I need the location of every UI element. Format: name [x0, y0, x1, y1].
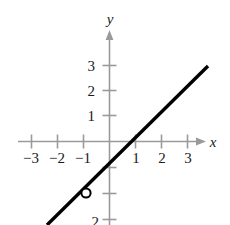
y-tick-label-2: 2	[88, 83, 96, 99]
x-tick-label-2: 2	[158, 150, 166, 166]
x-axis-arrowhead	[196, 138, 206, 146]
x-tick-label--1: −1	[75, 150, 91, 166]
x-tick-label--3: −3	[23, 150, 39, 166]
y-axis-arrowhead	[106, 30, 114, 40]
x-tick-label--2: −2	[49, 150, 65, 166]
y-tick-label-3: 3	[88, 58, 96, 74]
axes-group	[18, 30, 206, 225]
x-axis-label: x	[209, 134, 217, 150]
open-circle-endpoint	[81, 188, 90, 197]
line-series-y-equals-x-minus-1	[47, 66, 208, 225]
graph-figure: y x −3 −2 −1 1 2 3 3 2 1 2	[0, 0, 230, 225]
y-tick-label--2-clipped: 2	[92, 214, 100, 225]
coordinate-plot: y x −3 −2 −1 1 2 3 3 2 1 2	[0, 0, 230, 225]
x-tick-label-1: 1	[132, 150, 140, 166]
x-tick-label-3: 3	[184, 150, 192, 166]
y-tick-label-1: 1	[88, 108, 96, 124]
y-axis-label: y	[105, 11, 114, 27]
